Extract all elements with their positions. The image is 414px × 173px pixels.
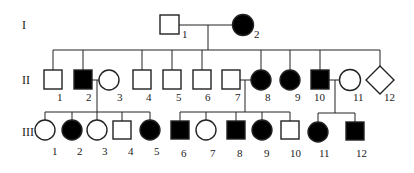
male-unaffected-icon (44, 70, 62, 89)
individual-III-7: 7 (196, 120, 216, 159)
male-unaffected-icon (222, 70, 240, 89)
generation-label-II: II (22, 73, 30, 87)
male-unaffected-icon (160, 15, 179, 34)
male-unaffected-icon (281, 121, 299, 139)
svg-text:9: 9 (295, 91, 301, 103)
svg-text:5: 5 (176, 91, 182, 103)
female-affected-icon (233, 15, 254, 36)
female-affected-icon (140, 120, 160, 140)
individual-II-12: 12 (366, 66, 395, 103)
individual-III-2: 2 (62, 120, 83, 157)
svg-text:3: 3 (102, 145, 108, 157)
female-affected-icon (62, 120, 82, 140)
individual-II-11: 11 (340, 70, 364, 104)
svg-text:8: 8 (237, 147, 243, 159)
individual-III-1: 1 (35, 120, 58, 157)
individual-II-1: 1 (44, 70, 63, 103)
svg-text:8: 8 (265, 91, 271, 103)
individual-III-4: 4 (113, 121, 134, 157)
svg-text:5: 5 (154, 145, 160, 157)
male-unaffected-icon (163, 70, 181, 89)
individual-III-5: 5 (140, 120, 160, 157)
connector-lines (45, 25, 380, 122)
generation-label-III: III (22, 125, 34, 139)
female-affected-icon (308, 122, 328, 142)
female-affected-icon (280, 70, 300, 90)
unknown-sex-diamond-icon (366, 66, 394, 94)
individual-II-10: 10 (311, 70, 329, 103)
svg-text:2: 2 (86, 91, 92, 103)
svg-text:4: 4 (128, 145, 134, 157)
male-affected-icon (74, 70, 92, 89)
individual-I-1: 1 (160, 15, 188, 40)
male-affected-icon (227, 121, 245, 139)
svg-text:6: 6 (181, 147, 187, 159)
individual-III-3: 3 (87, 120, 108, 157)
svg-text:10: 10 (290, 147, 302, 159)
female-affected-icon (251, 70, 271, 90)
individual-III-8: 8 (227, 121, 245, 159)
svg-text:2: 2 (77, 145, 83, 157)
individual-II-3: 3 (99, 70, 123, 103)
svg-text:2: 2 (254, 28, 260, 40)
male-affected-icon (171, 121, 189, 139)
individual-II-9: 9 (280, 70, 301, 103)
svg-text:1: 1 (182, 28, 188, 40)
svg-text:6: 6 (205, 91, 211, 103)
female-unaffected-icon (196, 120, 216, 140)
svg-text:11: 11 (319, 147, 330, 159)
generation-label-I: I (22, 18, 26, 32)
female-unaffected-icon (35, 120, 55, 140)
male-affected-icon (346, 122, 364, 140)
individual-II-6: 6 (193, 70, 211, 103)
svg-text:1: 1 (57, 91, 63, 103)
svg-text:1: 1 (52, 145, 58, 157)
individual-III-9: 9 (252, 120, 272, 159)
pedigree-diagram: I II III (0, 0, 414, 173)
female-unaffected-icon (99, 70, 119, 90)
female-affected-icon (252, 120, 272, 140)
individual-III-6: 6 (171, 121, 189, 159)
svg-text:7: 7 (235, 91, 241, 103)
svg-text:3: 3 (117, 91, 123, 103)
individual-II-2: 2 (74, 70, 92, 103)
male-unaffected-icon (133, 70, 151, 89)
male-affected-icon (311, 70, 329, 89)
individual-II-8: 8 (251, 70, 271, 103)
svg-text:4: 4 (146, 91, 152, 103)
individual-III-11: 11 (308, 122, 330, 159)
svg-text:10: 10 (314, 91, 326, 103)
male-unaffected-icon (193, 70, 211, 89)
individual-II-5: 5 (163, 70, 182, 103)
svg-text:7: 7 (210, 147, 216, 159)
svg-text:9: 9 (264, 147, 270, 159)
svg-text:12: 12 (384, 91, 395, 103)
individual-III-12: 12 (346, 122, 367, 159)
individual-III-10: 10 (281, 121, 302, 159)
female-unaffected-icon (87, 120, 107, 140)
individual-I-2: 2 (233, 15, 260, 41)
individual-II-4: 4 (133, 70, 152, 103)
male-unaffected-icon (113, 121, 131, 139)
individual-II-7: 7 (222, 70, 241, 103)
svg-text:11: 11 (353, 91, 364, 103)
svg-text:12: 12 (356, 147, 367, 159)
female-unaffected-icon (340, 70, 361, 91)
